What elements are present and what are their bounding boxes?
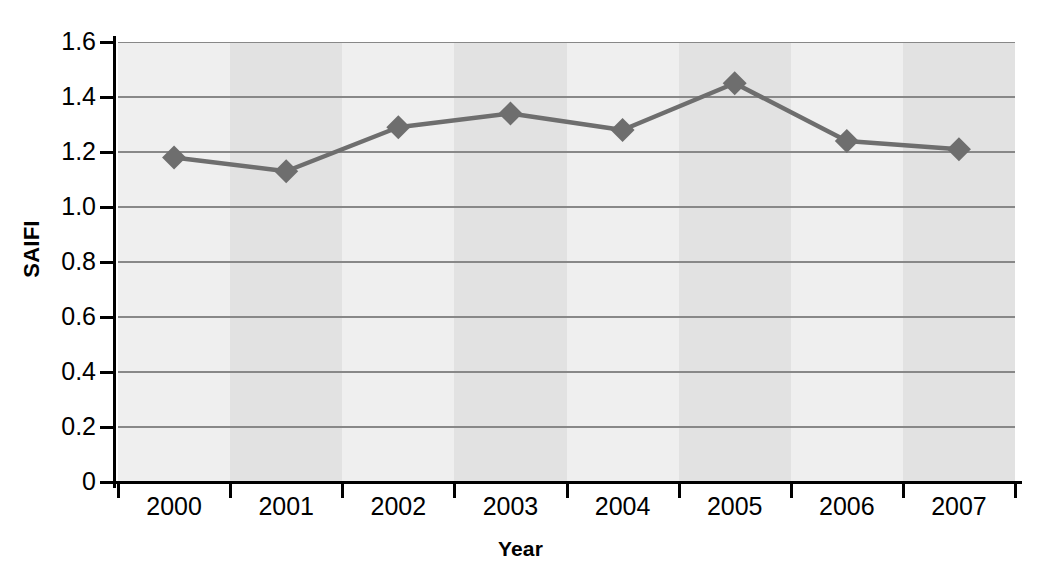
y-tick-0.4 xyxy=(100,371,116,374)
plot-area xyxy=(118,42,1015,482)
gridline-1.2 xyxy=(118,151,1015,153)
x-tick-label-2000: 2000 xyxy=(118,494,230,519)
y-tick-label-1.0: 1.0 xyxy=(4,194,96,219)
gridline-0.6 xyxy=(118,316,1015,318)
y-tick-1.6 xyxy=(100,41,116,44)
x-axis-title: Year xyxy=(0,537,1041,561)
gridline-0.2 xyxy=(118,426,1015,428)
y-tick-label-1.4: 1.4 xyxy=(4,84,96,109)
x-tick-label-2005: 2005 xyxy=(679,494,791,519)
y-tick-label-1.6: 1.6 xyxy=(4,29,96,54)
y-tick-1.0 xyxy=(100,206,116,209)
gridline-0.8 xyxy=(118,261,1015,263)
y-tick-0 xyxy=(100,481,116,484)
y-tick-label-0.6: 0.6 xyxy=(4,304,96,329)
y-tick-label-1.2: 1.2 xyxy=(4,139,96,164)
x-tick-label-2002: 2002 xyxy=(342,494,454,519)
y-tick-0.8 xyxy=(100,261,116,264)
gridline-0.4 xyxy=(118,371,1015,373)
y-tick-label-0.2: 0.2 xyxy=(4,414,96,439)
x-tick-label-2006: 2006 xyxy=(791,494,903,519)
y-tick-label-0: 0 xyxy=(4,469,96,494)
x-tick-label-2007: 2007 xyxy=(903,494,1015,519)
gridline-1.6 xyxy=(118,42,1015,43)
x-tick-label-2003: 2003 xyxy=(454,494,566,519)
y-tick-label-0.4: 0.4 xyxy=(4,359,96,384)
x-tick-label-2001: 2001 xyxy=(230,494,342,519)
gridline-1.4 xyxy=(118,96,1015,98)
y-tick-0.2 xyxy=(100,426,116,429)
y-tick-1.4 xyxy=(100,96,116,99)
y-tick-0.6 xyxy=(100,316,116,319)
chart-container: SAIFI 00.20.40.60.81.01.21.41.6 20002001… xyxy=(0,0,1041,586)
gridline-1.0 xyxy=(118,206,1015,208)
x-tick-label-2004: 2004 xyxy=(567,494,679,519)
y-tick-1.2 xyxy=(100,151,116,154)
y-tick-label-0.8: 0.8 xyxy=(4,249,96,274)
